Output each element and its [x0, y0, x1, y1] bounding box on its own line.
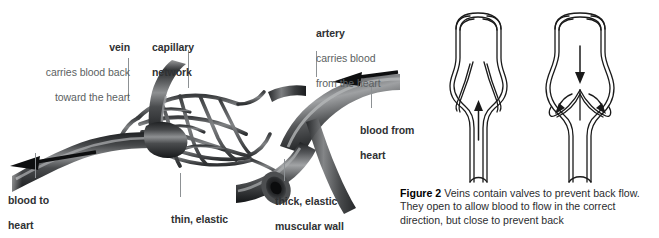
label-thin-muscular-wall: thin, elastic muscular wall — [171, 200, 271, 238]
label-thick-wall-line1: thick, elastic — [275, 195, 337, 207]
label-blood-to-heart: blood to heart — [8, 181, 88, 231]
label-vein-line2: toward the heart — [55, 91, 130, 103]
figure-page: vein carries blood back toward the heart… — [0, 0, 659, 238]
figure-caption: Figure 2 Veins contain valves to prevent… — [400, 187, 656, 227]
label-blood-to-heart-line2: heart — [8, 219, 33, 231]
label-vein: vein carries blood back toward the heart — [10, 28, 130, 104]
leader-line-thick-wall — [284, 159, 285, 181]
figure-caption-label: Figure 2 — [400, 187, 441, 199]
label-artery-heading: artery — [316, 27, 426, 40]
valve-open-diagram — [450, 13, 507, 182]
label-vein-heading: vein — [10, 41, 130, 54]
flow-arrow-down — [575, 46, 585, 84]
label-thick-muscular-wall: thick, elastic muscular wall — [275, 182, 375, 232]
leader-line-thin-wall — [180, 173, 181, 197]
label-artery-line2: from the heart — [316, 77, 381, 89]
label-blood-to-heart-line1: blood to — [8, 194, 49, 206]
label-artery: artery carries blood from the heart — [316, 14, 426, 90]
label-blood-from-heart: blood from heart — [360, 111, 440, 161]
label-blood-from-heart-line2: heart — [360, 149, 385, 161]
label-capillary-network: capillary network — [152, 28, 242, 78]
label-thin-wall-line1: thin, elastic — [171, 213, 228, 225]
leader-line-blood-to-heart — [35, 153, 36, 178]
flow-arrow-up — [474, 100, 483, 140]
label-capillary-line1: capillary — [152, 41, 194, 53]
label-blood-from-heart-line1: blood from — [360, 124, 414, 136]
label-capillary-line2: network — [152, 66, 192, 78]
valve-closed-diagram — [546, 13, 614, 182]
label-artery-line1: carries blood — [316, 52, 375, 64]
label-vein-line1: carries blood back — [46, 66, 130, 78]
label-thick-wall-line2: muscular wall — [275, 220, 344, 232]
